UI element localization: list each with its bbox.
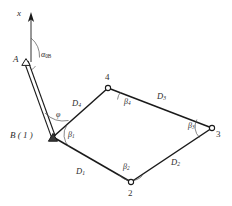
link-d1-label: D1 (76, 167, 85, 177)
d3-subscript: 3 (163, 95, 166, 101)
d1-subscript: 1 (82, 170, 85, 176)
joint-3 (209, 125, 214, 130)
diagram-canvas (0, 0, 232, 206)
beta3-subscript: 3 (192, 124, 195, 130)
link-d3-label: D3 (157, 92, 166, 102)
mechanism-diagram: x A B ( 1 ) 4 3 2 α0B φ β1 β4 β3 β2 D4 D… (0, 0, 232, 206)
crank-link-ab (25, 61, 56, 137)
beta2-angle-label: β2 (123, 163, 130, 171)
joint-2 (128, 179, 133, 184)
node-3-label: 3 (216, 130, 221, 139)
d2-subscript: 2 (177, 161, 180, 167)
alpha-subscript: 0B (45, 53, 51, 59)
alpha-angle-arc (31, 38, 40, 58)
beta2-subscript: 2 (127, 165, 130, 171)
link-d2-label: D2 (171, 158, 180, 168)
beta4-angle-label: β4 (124, 98, 131, 106)
d4-subscript: 4 (78, 102, 81, 108)
joint-4 (105, 85, 110, 90)
x-axis-label: x (17, 9, 21, 18)
link-d2 (131, 128, 212, 182)
alpha-angle-label: α0B (41, 51, 51, 59)
beta3-angle-label: β3 (188, 122, 195, 130)
beta1-subscript: 1 (72, 133, 75, 139)
x-axis-line (28, 12, 34, 62)
point-b-label: B ( 1 ) (10, 131, 33, 140)
beta1-angle-label: β1 (68, 131, 75, 139)
node-2-label: 2 (128, 189, 133, 198)
beta4-subscript: 4 (128, 100, 131, 106)
point-a-label: A (13, 55, 19, 64)
phi-angle-label: φ (56, 111, 60, 119)
node-4-label: 4 (105, 73, 110, 82)
beta4-arc (118, 92, 121, 100)
link-d4 (53, 88, 108, 137)
joint-markers (22, 59, 215, 185)
link-d4-label: D4 (72, 99, 81, 109)
